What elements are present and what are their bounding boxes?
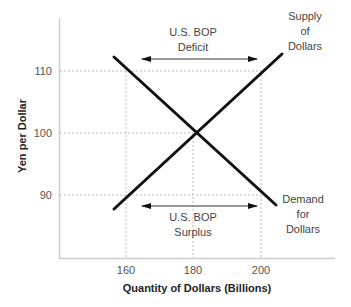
demand-label-line2: for (297, 208, 310, 220)
y-axis-title: Yen per Dollar (16, 98, 28, 173)
supply-label-line3: Dollars (288, 40, 323, 52)
x-tick-200: 200 (252, 264, 270, 276)
y-tick-110: 110 (34, 65, 52, 77)
supply-label-line1: Supply (288, 10, 322, 22)
x-tick-160: 160 (117, 264, 135, 276)
y-tick-90: 90 (40, 189, 52, 201)
y-tick-100: 100 (34, 127, 52, 139)
deficit-label-line1: U.S. BOP (169, 26, 217, 38)
surplus-label-line1: U.S. BOP (169, 211, 217, 223)
x-axis-title: Quantity of Dollars (Billions) (123, 282, 272, 294)
demand-curve (114, 57, 276, 205)
surplus-label-line2: Surplus (174, 226, 212, 238)
demand-label-line1: Demand (282, 193, 324, 205)
chart: 110 100 90 160 180 200 Quantity of Dolla… (0, 0, 351, 307)
deficit-label-line2: Deficit (178, 41, 209, 53)
x-tick-180: 180 (184, 264, 202, 276)
demand-label-line3: Dollars (286, 223, 321, 235)
supply-label-line2: of (300, 25, 310, 37)
